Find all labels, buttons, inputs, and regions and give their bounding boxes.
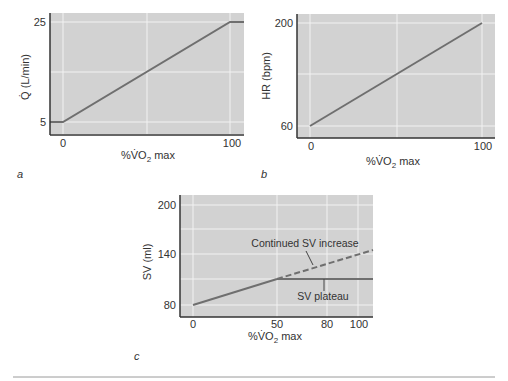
figure-canvas: 25 5 0 100 %V̇O2 max Q̇ (L/min) a 200 60… (0, 0, 508, 381)
panel-label-a: a (17, 168, 23, 180)
chart-b-ytick-60: 60 (281, 120, 293, 132)
panel-label-b: b (261, 168, 267, 180)
chart-a-y-axis-title: Q̇ (L/min) (19, 54, 31, 100)
chart-a-ytick-5: 5 (40, 116, 46, 128)
chart-b-ytick-200: 200 (275, 17, 293, 29)
chart-b-y-axis-title: HR (bpm) (260, 52, 272, 100)
chart-b-xtick-100: 100 (474, 140, 492, 152)
chart-c-annotation-continued-increase: Continued SV increase (251, 237, 359, 249)
chart-a-ytick-25: 25 (34, 16, 46, 28)
chart-c-y-axis-title: SV (ml) (141, 244, 153, 281)
chart-c-ytick-140: 140 (158, 248, 176, 260)
chart-b: 200 60 0 100 %V̇O2 max HR (bpm) b (260, 14, 495, 180)
chart-c-x-axis-title: %V̇O2 max (248, 330, 302, 345)
chart-c: Continued SV increase SV plateau 200 140… (134, 195, 373, 362)
chart-c-xtick-0: 0 (190, 318, 196, 330)
chart-c-xtick-80: 80 (321, 318, 333, 330)
chart-a-xtick-100: 100 (223, 137, 241, 149)
chart-a: 25 5 0 100 %V̇O2 max Q̇ (L/min) a (17, 13, 244, 180)
chart-b-xtick-0: 0 (308, 140, 314, 152)
chart-c-xtick-100: 100 (350, 318, 368, 330)
chart-c-ytick-80: 80 (164, 299, 176, 311)
chart-a-x-axis-title: %V̇O2 max (121, 149, 175, 164)
chart-a-xtick-0: 0 (60, 137, 66, 149)
chart-c-xtick-50: 50 (271, 318, 283, 330)
chart-b-x-axis-title: %V̇O2 max (366, 155, 420, 170)
chart-c-annotation-sv-plateau: SV plateau (297, 290, 349, 302)
panel-label-c: c (134, 350, 140, 362)
chart-c-ytick-200: 200 (158, 199, 176, 211)
